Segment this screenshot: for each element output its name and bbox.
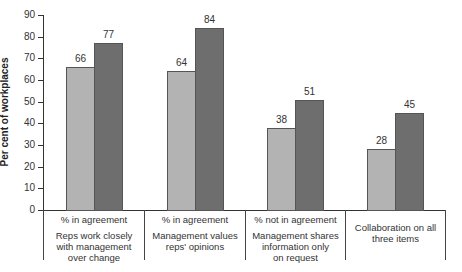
y-tick-label: 30 (10, 140, 35, 150)
bar-value-label: 38 (267, 115, 297, 125)
bar-dark (295, 100, 324, 211)
category-label: Collaboration on allthree items (346, 214, 445, 244)
y-tick (38, 167, 43, 168)
category-description: information only (246, 241, 345, 252)
y-tick-label: 40 (10, 118, 35, 128)
y-tick (38, 123, 43, 124)
category-description: with management (44, 241, 144, 252)
category-measure (346, 214, 445, 222)
y-tick-label: 90 (10, 10, 35, 20)
y-tick (38, 145, 43, 146)
category-description: Reps work closely (44, 230, 144, 241)
bar-value-label: 77 (94, 30, 124, 40)
bar-dark (195, 28, 224, 211)
y-tick-label: 0 (10, 205, 35, 215)
y-tick-label: 60 (10, 75, 35, 85)
category-label: % not in agreementManagement sharesinfor… (246, 214, 345, 263)
bar-light (267, 128, 296, 211)
y-tick (38, 80, 43, 81)
category-description: Collaboration on all (346, 222, 445, 233)
y-axis-line (43, 15, 44, 211)
category-label: % in agreementManagement valuesreps' opi… (145, 214, 245, 252)
bar-light (66, 67, 95, 211)
bar-dark (94, 43, 123, 211)
category-label: % in agreementReps work closelywith mana… (44, 214, 144, 263)
y-tick (38, 37, 43, 38)
category-description: three items (346, 233, 445, 244)
bar-light (367, 149, 396, 211)
y-tick-label: 20 (10, 162, 35, 172)
y-tick-label: 70 (10, 53, 35, 63)
category-measure: % in agreement (145, 214, 245, 225)
category-measure: % not in agreement (246, 214, 345, 225)
category-description: over change (44, 252, 144, 263)
bar-value-label: 45 (395, 100, 425, 110)
bar-value-label: 64 (167, 58, 197, 68)
category-description: on request (246, 252, 345, 263)
bar-value-label: 84 (195, 15, 225, 25)
category-measure: % in agreement (44, 214, 144, 225)
y-tick (38, 188, 43, 189)
bar-light (167, 71, 196, 211)
bar-value-label: 66 (66, 54, 96, 64)
bar-value-label: 51 (295, 87, 325, 97)
category-description: Management shares (246, 230, 345, 241)
category-description: reps' opinions (145, 241, 245, 252)
y-tick-label: 10 (10, 183, 35, 193)
category-description: Management values (145, 230, 245, 241)
y-tick (38, 15, 43, 16)
y-tick (38, 102, 43, 103)
bar-value-label: 28 (367, 136, 397, 146)
bar-chart: Per cent of workplaces 01020304050607080… (0, 0, 462, 272)
category-divider (445, 210, 446, 260)
bar-dark (395, 113, 424, 211)
y-tick-label: 80 (10, 32, 35, 42)
y-tick-label: 50 (10, 97, 35, 107)
y-axis-label-text: Per cent of workplaces (0, 58, 10, 167)
y-tick (38, 58, 43, 59)
